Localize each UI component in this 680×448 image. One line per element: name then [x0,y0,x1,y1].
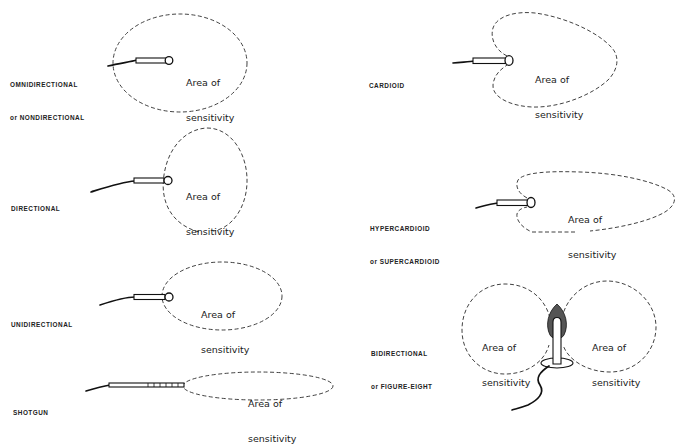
area-line: Area of [186,77,234,89]
label-directional: DIRECTIONAL [11,181,60,225]
area-line: sensitivity [482,377,530,389]
label-unidirectional: UNIDIRECTIONAL [11,297,73,341]
area-line: Area of [186,191,234,203]
area-line: Area of [248,398,296,410]
area-label-bidirectional-right: Area of sensitivity [592,319,640,400]
shotgun-cable [86,385,110,391]
area-line: Area of [535,74,583,86]
hypercardioid-mic-body [497,200,528,206]
label-shotgun: SHOTGUN [13,385,48,429]
area-line: sensitivity [535,109,583,121]
area-label-shotgun: Area of sensitivity [248,375,296,448]
label-cardioid: CARDIOID [369,58,405,102]
cardioid-mic-head [505,56,513,66]
bidirectional-mic-stem [553,318,561,365]
label-line: or FIGURE-EIGHT [371,381,432,392]
area-label-omnidirectional: Area of sensitivity [186,54,234,135]
area-line: sensitivity [568,249,616,261]
label-line: BIDIRECTIONAL [371,348,432,359]
label-line: CARDIOID [369,80,405,91]
hypercardioid-mic-head [527,198,535,208]
label-line: OMNIDIRECTIONAL [10,79,85,90]
cardioid-mic-body [473,58,506,64]
area-line: Area of [568,214,616,226]
directional-cable [91,181,135,192]
directional-mic-head [164,177,172,185]
area-line: sensitivity [186,112,234,124]
unidirectional-mic-head [165,293,173,301]
area-label-hypercardioid: Area of sensitivity [568,191,616,272]
omni-cable [108,60,137,66]
area-line: Area of [592,342,640,354]
area-line: Area of [482,342,530,354]
hypercardioid-cable [476,203,498,208]
area-label-bidirectional-left: Area of sensitivity [482,319,530,400]
directional-mic-body [134,178,164,183]
omni-mic-head [165,57,173,65]
cardioid-cable [453,61,474,63]
area-line: sensitivity [201,344,249,356]
area-line: sensitivity [248,433,296,445]
unidirectional-diagram [100,262,282,330]
label-bidirectional: BIDIRECTIONAL or FIGURE-EIGHT [371,326,432,403]
label-line: HYPERCARDIOID [370,223,440,234]
area-line: sensitivity [592,377,640,389]
area-line: Area of [201,309,249,321]
area-label-unidirectional: Area of sensitivity [201,286,249,367]
omni-mic-body [136,58,167,63]
unidirectional-cable [100,297,135,305]
area-label-cardioid: Area of sensitivity [535,51,583,132]
shotgun-mic-body [109,383,184,387]
label-line: DIRECTIONAL [11,203,60,214]
label-line: or SUPERCARDIOID [370,256,440,267]
label-line: or NONDIRECTIONAL [10,112,85,123]
label-line: UNIDIRECTIONAL [11,319,73,330]
label-line: SHOTGUN [13,407,48,418]
label-omnidirectional: OMNIDIRECTIONAL or NONDIRECTIONAL [10,57,85,134]
area-line: sensitivity [186,226,234,238]
label-hypercardioid: HYPERCARDIOID or SUPERCARDIOID [370,201,440,278]
area-label-directional: Area of sensitivity [186,168,234,249]
unidirectional-mic-body [134,295,165,300]
